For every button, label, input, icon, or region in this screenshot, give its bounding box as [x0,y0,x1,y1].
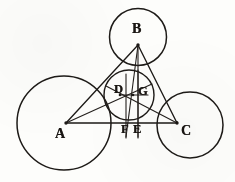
vertex-dot-b [136,43,139,46]
label-e: E [133,123,141,136]
label-c-tick: ' [175,120,178,132]
label-b: B [132,22,141,36]
vertex-dot-a [64,121,67,124]
segment-ab [66,45,138,123]
label-d: D [114,83,123,96]
label-a: A [55,127,65,141]
label-c: C [181,124,191,138]
label-g: G [138,85,148,98]
geometric-figure: B A ' C D G F E [0,0,235,182]
vertex-dot-g [132,94,135,97]
label-f: F [121,123,129,136]
